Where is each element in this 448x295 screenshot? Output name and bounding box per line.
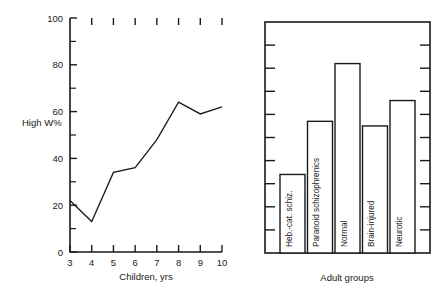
right-x-axis-title: Adult groups — [320, 272, 374, 283]
bar-chart-panel: Heb.-cat. schiz.Paranoid schizophrenicsN… — [236, 0, 448, 295]
left-y-ticklabels: 020406080100 — [47, 13, 63, 258]
bar-label: Heb.-cat. schiz. — [285, 191, 294, 247]
right-left-ticks — [265, 45, 275, 230]
y-ticklabel: 60 — [52, 106, 63, 117]
y-ticklabel: 20 — [52, 200, 63, 211]
figure-container: 020406080100 345678910 High W% Children,… — [0, 0, 448, 295]
x-ticklabel: 5 — [111, 257, 116, 268]
x-ticklabel: 9 — [198, 257, 203, 268]
right-right-ticks — [420, 45, 430, 230]
y-ticklabel: 0 — [58, 247, 63, 258]
bar-label: Neurotic — [395, 217, 404, 248]
left-x-ticks — [70, 245, 222, 252]
bar-label: Paranoid schizophrenics — [312, 158, 321, 247]
x-ticklabel: 10 — [217, 257, 228, 268]
x-ticklabel: 8 — [176, 257, 181, 268]
x-ticklabel: 3 — [67, 257, 72, 268]
line-series-high-w — [70, 102, 222, 221]
x-axis-title: Children, yrs — [119, 271, 173, 282]
x-ticklabel: 6 — [132, 257, 137, 268]
left-axis-lines — [70, 18, 222, 252]
x-ticklabel: 4 — [89, 257, 94, 268]
left-x-ticklabels: 345678910 — [67, 257, 227, 268]
y-ticklabel: 80 — [52, 59, 63, 70]
bar-label: Brain-injured — [367, 200, 376, 247]
y-ticklabel: 100 — [47, 13, 63, 24]
left-x-ticks-top — [92, 18, 222, 25]
y-ticklabel: 40 — [52, 153, 63, 164]
bar-label: Normal — [340, 220, 349, 247]
y-axis-title: High W% — [22, 117, 62, 128]
line-chart-panel: 020406080100 345678910 High W% Children,… — [0, 0, 236, 295]
x-ticklabel: 7 — [154, 257, 159, 268]
